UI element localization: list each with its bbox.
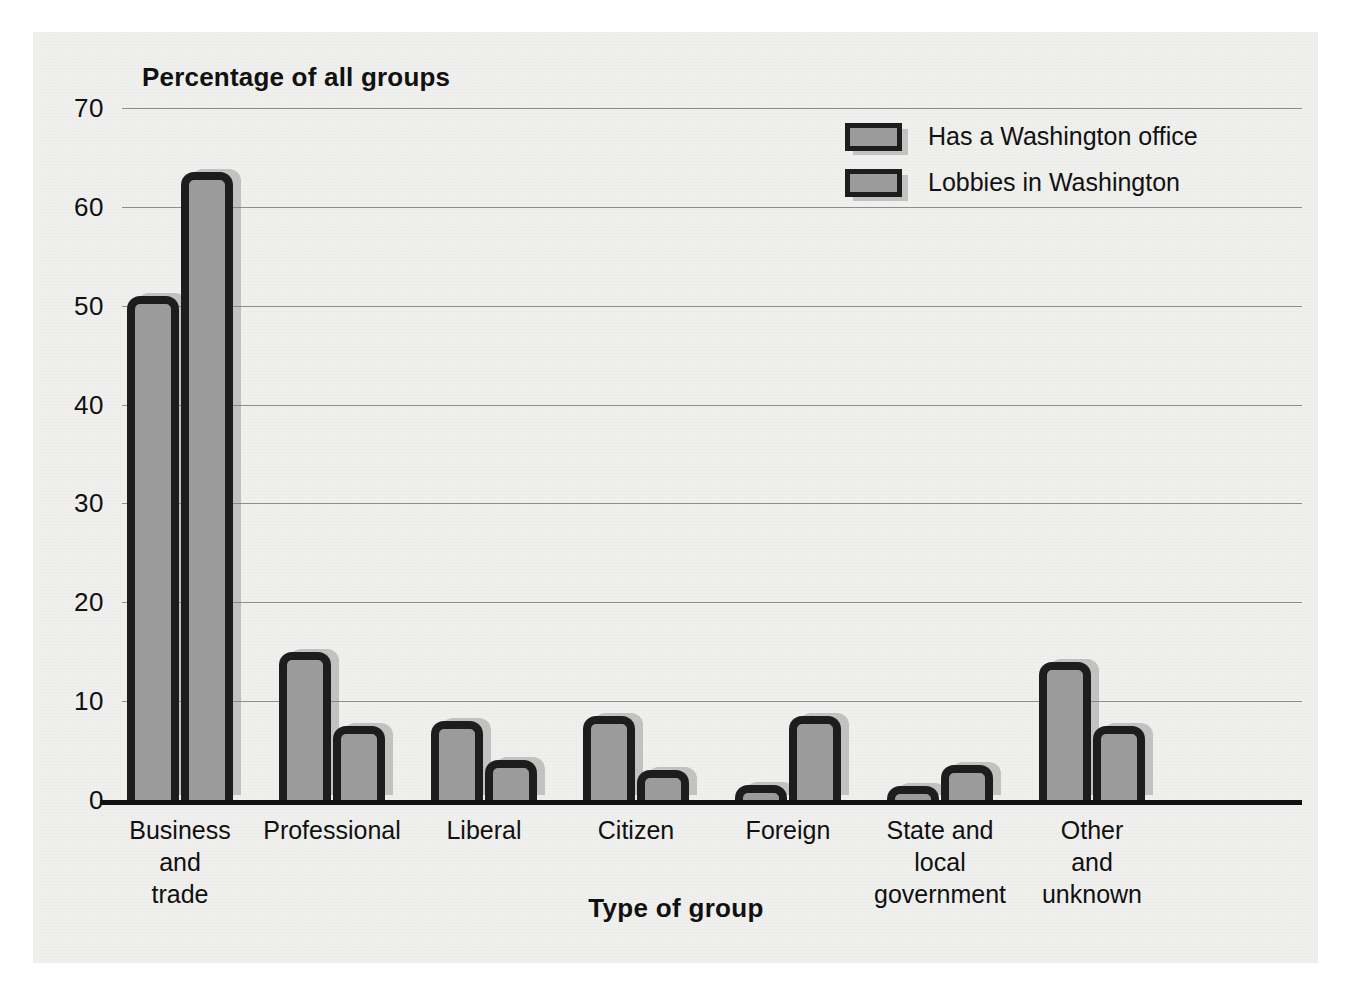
legend-item[interactable]: Lobbies in Washington (845, 168, 1198, 197)
x-axis-line (100, 800, 1302, 805)
bar[interactable] (789, 716, 841, 800)
legend-swatch-icon (845, 169, 902, 197)
bar[interactable] (279, 652, 331, 800)
x-axis-title: Type of group (0, 893, 1352, 924)
y-axis-tick-label: 50 (74, 290, 104, 321)
legend-label: Has a Washington office (928, 122, 1198, 151)
y-axis-tick-label: 30 (74, 488, 104, 519)
bar[interactable] (181, 172, 233, 800)
bar[interactable] (941, 765, 993, 800)
bar-group (583, 108, 689, 800)
y-axis-title: Percentage of all groups (142, 62, 450, 93)
y-axis-tick-label: 10 (74, 686, 104, 717)
bar[interactable] (887, 786, 939, 800)
bar[interactable] (583, 716, 635, 800)
bar-group (431, 108, 537, 800)
bar[interactable] (333, 726, 385, 800)
bar-group (735, 108, 841, 800)
chart-page: Percentage of all groups 010203040506070… (0, 0, 1352, 984)
bar[interactable] (637, 770, 689, 800)
y-axis-tick-label: 60 (74, 191, 104, 222)
bar-group (279, 108, 385, 800)
legend-item[interactable]: Has a Washington office (845, 122, 1198, 151)
y-axis-tick-label: 70 (74, 93, 104, 124)
legend-swatch-icon (845, 123, 902, 151)
legend-label: Lobbies in Washington (928, 168, 1180, 197)
bar[interactable] (431, 721, 483, 800)
bar[interactable] (735, 785, 787, 800)
bar[interactable] (1039, 662, 1091, 800)
bar[interactable] (485, 760, 537, 800)
bar[interactable] (127, 296, 179, 800)
bar[interactable] (1093, 726, 1145, 800)
y-axis-tick-label: 20 (74, 587, 104, 618)
bar-group (127, 108, 233, 800)
y-axis-tick-label: 40 (74, 389, 104, 420)
chart-legend: Has a Washington office Lobbies in Washi… (845, 122, 1198, 214)
